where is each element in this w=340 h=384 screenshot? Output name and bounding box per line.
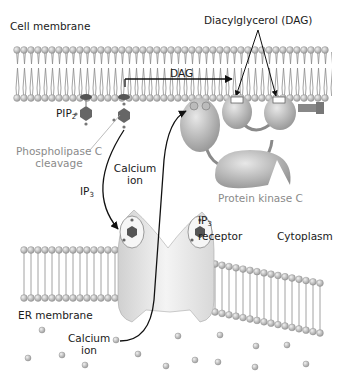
ip3-label: IP3 <box>80 185 94 201</box>
calcium-upper-label: Calciumion <box>113 162 157 186</box>
er-membrane-label: ER membrane <box>18 309 93 321</box>
signaling-diagram: Cell membrane Diacylglycerol (DAG) DAG P… <box>0 0 340 384</box>
pip2-label: PIP2 <box>56 107 76 123</box>
pkc-label: Protein kinase C <box>218 192 303 204</box>
protein-kinase-c <box>180 95 324 188</box>
ip3-receptor-label: IP3receptor <box>198 214 242 242</box>
cytoplasm-label: Cytoplasm <box>277 230 333 242</box>
plc-label: Phospholipase Ccleavage <box>10 145 108 169</box>
calcium-lower-label: Calciumion <box>68 332 110 356</box>
dag-label: Diacylglycerol (DAG) <box>204 14 312 26</box>
cell-membrane-label: Cell membrane <box>10 20 90 32</box>
dag-arrow-label: DAG <box>170 67 193 79</box>
